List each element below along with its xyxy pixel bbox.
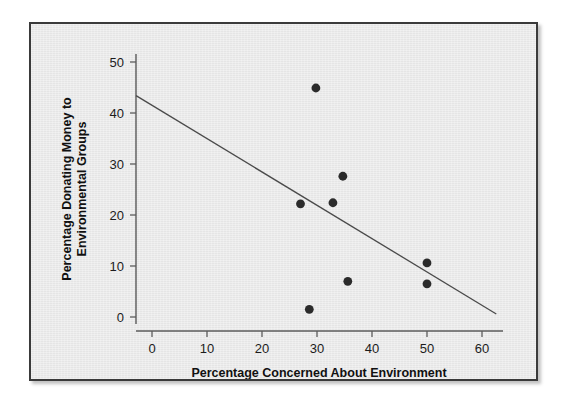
y-tick-20: 20 — [110, 208, 136, 223]
data-point — [343, 277, 352, 286]
x-tick-label: 30 — [310, 341, 324, 356]
y-tick-label: 0 — [117, 310, 124, 325]
x-tick-60: 60 — [475, 331, 489, 356]
data-point — [312, 84, 321, 93]
x-tick-10: 10 — [200, 331, 214, 356]
y-axis-title: Percentage Donating Money to Environment… — [60, 97, 89, 281]
x-tick-label: 60 — [475, 341, 489, 356]
y-axis-title-line2: Environmental Groups — [75, 122, 89, 257]
data-point — [329, 198, 338, 207]
x-tick-label: 20 — [255, 341, 269, 356]
data-point — [423, 259, 432, 268]
x-tick-20: 20 — [255, 331, 269, 356]
y-tick-label: 20 — [110, 208, 124, 223]
y-tick-40: 40 — [110, 106, 136, 121]
regression-line — [136, 96, 496, 314]
y-tick-0: 0 — [117, 310, 136, 325]
x-tick-label: 50 — [420, 341, 434, 356]
x-tick-0: 0 — [148, 331, 155, 356]
x-tick-label: 40 — [365, 341, 379, 356]
scatter-plot: 50 40 30 20 10 — [31, 24, 536, 379]
data-point — [423, 279, 432, 288]
x-axis-title: Percentage Concerned About Environment — [191, 366, 447, 379]
figure-canvas: 50 40 30 20 10 — [0, 0, 569, 415]
y-tick-10: 10 — [110, 259, 136, 274]
x-tick-group: 0 10 20 30 40 — [148, 331, 489, 356]
y-tick-label: 30 — [110, 157, 124, 172]
x-tick-40: 40 — [365, 331, 379, 356]
y-axis-title-line1: Percentage Donating Money to — [60, 97, 74, 281]
y-tick-group: 50 40 30 20 10 — [110, 55, 136, 325]
x-tick-50: 50 — [420, 331, 434, 356]
x-tick-30: 30 — [310, 331, 324, 356]
y-tick-label: 50 — [110, 55, 124, 70]
y-tick-50: 50 — [110, 55, 136, 70]
x-tick-label: 10 — [200, 341, 214, 356]
data-point — [338, 172, 347, 181]
data-point — [305, 305, 314, 314]
y-tick-30: 30 — [110, 157, 136, 172]
y-tick-label: 40 — [110, 106, 124, 121]
chart-panel: 50 40 30 20 10 — [29, 22, 538, 381]
y-tick-label: 10 — [110, 259, 124, 274]
data-point — [296, 199, 305, 208]
data-point-group — [296, 84, 431, 314]
x-tick-label: 0 — [148, 341, 155, 356]
